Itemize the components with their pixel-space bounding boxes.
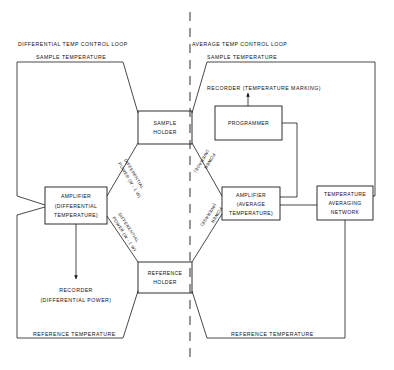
box-sample-holder[interactable] [138,111,192,144]
programmer-label: PROGRAMMER [228,120,269,126]
wire-sample-temperature-right [192,62,375,196]
label-reference-temperature-left: REFERENCE TEMPERATURE [33,331,116,337]
diag-label-group-diff-upper: DIFFERENTIAL POWER (W - 1 W) [117,158,148,199]
label-recorder-temperature-marking: RECORDER (TEMPERATURE MARKING) [207,85,321,91]
label-sample-temperature-right: SAMPLE TEMPERATURE [207,54,277,60]
loop-title-differential: DIFFERENTIAL TEMP CONTROL LOOP [18,41,128,47]
wire-sample-temperature-left [17,62,138,205]
reference-holder-label-line2: HOLDER [153,279,176,285]
temp-avg-network-label-line3: NETWORK [331,209,360,215]
amplifier-diff-label-line1: AMPLIFIER [61,193,91,199]
amplifier-avg-label-line3: TEMPERATURE) [229,210,273,216]
block-diagram-canvas: SAMPLE HOLDER REFERENCE HOLDER AMPLIFIER… [0,0,394,370]
label-recorder-differential-power-line2: (DIFFERENTIAL POWER) [40,297,111,303]
loop-title-average: AVERAGE TEMP CONTROL LOOP [192,41,287,47]
label-sample-temperature-left: SAMPLE TEMPERATURE [36,54,106,60]
reference-holder-label-line1: REFERENCE [148,270,183,276]
box-reference-holder[interactable] [138,262,192,293]
sample-holder-label-line2: HOLDER [153,129,176,135]
label-reference-temperature-right: REFERENCE TEMPERATURE [231,331,314,337]
temp-avg-network-label-line2: AVERAGING [328,200,361,206]
block-diagram-svg: SAMPLE HOLDER REFERENCE HOLDER AMPLIFIER… [0,0,394,370]
wire-programmer-to-amplifier-avg [280,123,297,197]
sample-holder-label-line1: SAMPLE [154,120,177,126]
temp-avg-network-label-line1: TEMPERATURE [324,191,366,197]
diag-label-group-avg-upper: POWER (AVERAGE) [193,149,217,178]
wire-reference-temperature-right [192,220,345,338]
amplifier-diff-label-line3: TEMPERATURE) [54,212,98,218]
amplifier-avg-label-line2: (AVERAGE [237,201,266,207]
label-recorder-differential-power-line1: RECORDER [59,287,93,293]
amplifier-avg-label-line1: AMPLIFIER [236,192,266,198]
amplifier-diff-label-line2: (DIFFERENTIAL [55,203,97,209]
